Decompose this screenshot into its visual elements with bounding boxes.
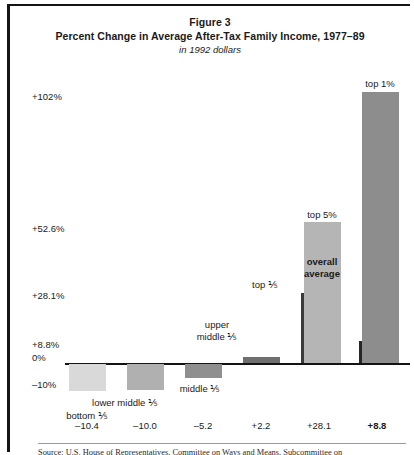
bar-top-five-percent[interactable] — [304, 222, 341, 363]
y-tick-label-102: +102% — [32, 92, 62, 102]
caption-middle-fifth: middle ⅕ — [165, 383, 235, 395]
x-value-middle-fifth: –5.2 — [173, 420, 233, 432]
x-axis-values: –10.4 –10.0 –5.2 +2.2 +28.1 +8.8 +52.6 +… — [65, 420, 410, 434]
figure-number: Figure 3 — [10, 16, 410, 29]
caption-upper-middle-line1: upper — [182, 319, 252, 331]
x-value-bottom-fifth: –10.4 — [57, 420, 117, 432]
bar-middle-fifth[interactable] — [185, 364, 222, 378]
source-note: Source: U.S. House of Representatives, C… — [38, 448, 410, 455]
y-tick-label-28-1: +28.1% — [32, 291, 65, 301]
x-value-overall-average: +8.8 — [347, 420, 407, 432]
bar-top-one-percent[interactable] — [362, 92, 399, 363]
y-tick-label-52-6: +52.6% — [32, 224, 65, 234]
caption-overall-average-line1: overall — [282, 256, 362, 268]
x-value-lower-middle-fifth: –10.0 — [115, 420, 175, 432]
bar-bottom-fifth[interactable] — [69, 364, 106, 391]
x-value-upper-middle-fifth: +2.2 — [231, 420, 291, 432]
figure-title: Percent Change in Average After-Tax Fami… — [10, 29, 410, 43]
x-value-top-5-percent: +52.6 — [405, 420, 414, 432]
figure-title-block: Figure 3 Percent Change in Average After… — [10, 16, 410, 57]
x-value-top-fifth: +28.1 — [289, 420, 349, 432]
y-tick-label-8-8: +8.8% — [32, 340, 59, 350]
caption-overall-average-line2: average — [282, 268, 362, 280]
caption-top-fifth: top ⅕ — [235, 279, 295, 291]
caption-lower-middle-fifth: lower middle ⅕ — [70, 397, 180, 409]
y-tick-label-neg10: –10% — [32, 380, 56, 390]
bar-lower-middle-fifth[interactable] — [127, 364, 164, 390]
y-tick-label-0: 0% — [32, 353, 46, 363]
figure-subtitle: in 1992 dollars — [10, 43, 410, 57]
caption-top-5-percent: top 5% — [292, 209, 352, 221]
source-divider — [38, 443, 406, 444]
caption-upper-middle-line2: middle ⅕ — [182, 331, 252, 343]
figure-frame: Figure 3 Percent Change in Average After… — [7, 4, 410, 452]
caption-top-1-percent: top 1% — [350, 78, 410, 90]
